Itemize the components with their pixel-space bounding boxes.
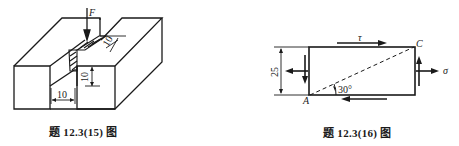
- corner-a-label: A: [302, 95, 310, 106]
- groove-width-label: 10: [57, 89, 67, 100]
- force-label: F: [88, 7, 96, 18]
- height-dimension-label: 25: [269, 67, 280, 77]
- shear-stress-top-label: τ: [358, 32, 362, 43]
- figure-caption-15: 题 12.3(15) 图: [49, 123, 118, 139]
- figure-grooved-block: F 10 10 10 题 12.3(15) 图: [0, 0, 230, 146]
- angle-label: 30°: [338, 84, 352, 95]
- figure-stress-element: τ C A σ 30° 25 题 12.3(16) 图: [230, 0, 459, 146]
- corner-c-label: C: [416, 38, 423, 49]
- normal-stress-label: σ: [443, 65, 449, 76]
- figure-caption-16: 题 12.3(16) 图: [323, 124, 392, 140]
- groove-depth-label: 10: [79, 72, 90, 82]
